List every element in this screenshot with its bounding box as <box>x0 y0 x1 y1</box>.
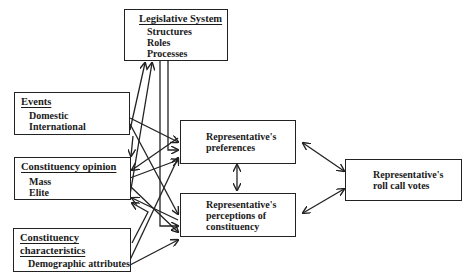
edge-opinion-preferences <box>130 160 178 178</box>
node-legislative-item: Structures <box>147 26 227 37</box>
node-characteristics-item: Demographic attributes <box>28 258 130 269</box>
node-preferences-line2: preferences <box>206 142 295 153</box>
node-legislative-system: Legislative System Structures Roles Proc… <box>124 9 228 61</box>
edge-legislative-preferences <box>168 60 178 150</box>
node-roll-call-votes: Representative's roll call votes <box>345 159 462 201</box>
node-representative-preferences: Representative's preferences <box>180 120 296 164</box>
node-representative-perceptions: Representative's perceptions of constitu… <box>180 193 296 237</box>
node-characteristics-title-line2: characteristics <box>20 245 130 257</box>
node-legislative-title: Legislative System <box>139 13 227 25</box>
edge-perceptions-votes <box>303 189 344 213</box>
node-perceptions-line1: Representative's <box>206 199 295 210</box>
node-legislative-item: Roles <box>147 37 227 48</box>
node-events-item: Domestic <box>29 110 129 121</box>
edge-characteristics-opinion <box>132 203 148 243</box>
node-characteristics-title-line1: Constituency <box>20 232 130 244</box>
node-events-title: Events <box>21 96 129 108</box>
edge-events-opinion-2 <box>131 136 133 156</box>
edge-legislative-perceptions <box>160 60 178 226</box>
node-events-item: International <box>29 121 129 132</box>
edge-preferences-votes <box>303 143 344 171</box>
node-perceptions-line2: perceptions of <box>206 210 295 221</box>
node-votes-line2: roll call votes <box>373 180 461 191</box>
node-perceptions-line3: constituency <box>206 221 295 232</box>
node-constituency-characteristics: Constituency characteristics Demographic… <box>13 228 131 272</box>
edge-characteristics-preferences <box>130 158 178 260</box>
node-legislative-item: Processes <box>147 48 227 59</box>
node-preferences-line1: Representative's <box>206 131 295 142</box>
node-votes-line1: Representative's <box>373 169 461 180</box>
node-constituency-opinion: Constituency opinion Mass Elite <box>14 157 131 200</box>
node-opinion-item: Mass <box>29 176 130 187</box>
node-opinion-title: Constituency opinion <box>21 161 130 173</box>
node-opinion-item: Elite <box>29 187 130 198</box>
node-events: Events Domestic International <box>14 92 130 135</box>
